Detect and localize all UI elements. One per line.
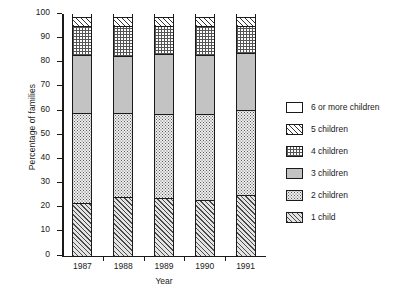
- bar-segment-1991-5-children[interactable]: [237, 18, 255, 28]
- y-tick-mark: [57, 13, 62, 14]
- legend-label: 2 children: [311, 190, 348, 200]
- y-tick-mark: [57, 37, 62, 38]
- y-tick: 100: [57, 13, 62, 14]
- bar-segment-1988-3-children[interactable]: [114, 57, 132, 114]
- y-tick-mark: [57, 206, 62, 207]
- bar-segment-1990-4-children[interactable]: [196, 27, 214, 56]
- legend-item[interactable]: 2 children: [286, 184, 398, 206]
- bar-segment-1988-1-child[interactable]: [114, 198, 132, 256]
- y-tick-label: 50: [24, 128, 50, 138]
- stacked-bar-chart: Percentage of families 01020304050607080…: [0, 0, 399, 301]
- bar-segment-1989-2-children[interactable]: [155, 115, 173, 198]
- bar-segment-1988-6-or-more-children[interactable]: [114, 14, 132, 18]
- y-tick: 60: [57, 110, 62, 111]
- x-axis-line: [62, 256, 266, 258]
- bar-segment-1987-4-children[interactable]: [73, 27, 91, 56]
- y-tick: 90: [57, 37, 62, 38]
- legend-item[interactable]: 1 child: [286, 206, 398, 228]
- y-tick: 50: [57, 134, 62, 135]
- bar-segment-1988-5-children[interactable]: [114, 18, 132, 28]
- y-tick-label: 70: [24, 79, 50, 89]
- legend-label: 1 child: [311, 212, 336, 222]
- y-tick-mark: [57, 182, 62, 183]
- legend-swatch-cross-hatch-grid: [286, 146, 303, 157]
- legend-item[interactable]: 4 children: [286, 140, 398, 162]
- y-tick-mark: [57, 230, 62, 231]
- chart-legend: 6 or more children5 children4 children3 …: [286, 96, 398, 228]
- bar-segment-1987-6-or-more-children[interactable]: [73, 14, 91, 18]
- legend-swatch-diagonal-hatch: [286, 212, 303, 223]
- legend-label: 4 children: [311, 146, 348, 156]
- legend-item[interactable]: 6 or more children: [286, 96, 398, 118]
- y-tick: 30: [57, 182, 62, 183]
- bar-segment-1991-3-children[interactable]: [237, 54, 255, 111]
- x-tick-label-1988: 1988: [103, 261, 143, 271]
- legend-swatch-fine-stipple: [286, 190, 303, 201]
- y-tick-mark: [57, 61, 62, 62]
- x-tick-label-1987: 1987: [62, 261, 102, 271]
- y-tick-label: 90: [24, 31, 50, 41]
- bar-segment-1990-2-children[interactable]: [196, 115, 214, 201]
- legend-swatch-solid-grey: [286, 168, 303, 179]
- legend-swatch-empty-white: [286, 102, 303, 113]
- y-tick-mark: [57, 134, 62, 135]
- bar-segment-1991-6-or-more-children[interactable]: [237, 14, 255, 18]
- bar-segment-1991-1-child[interactable]: [237, 196, 255, 255]
- bar-segment-1987-2-children[interactable]: [73, 114, 91, 203]
- y-tick-label: 100: [24, 7, 50, 17]
- bar-1987[interactable]: [72, 14, 92, 256]
- y-tick-mark: [57, 158, 62, 159]
- bar-segment-1989-3-children[interactable]: [155, 55, 173, 115]
- y-tick-label: 20: [24, 200, 50, 210]
- y-tick: 10: [57, 230, 62, 231]
- y-tick: 40: [57, 158, 62, 159]
- bar-segment-1987-5-children[interactable]: [73, 18, 91, 28]
- bar-segment-1989-4-children[interactable]: [155, 27, 173, 55]
- bar-1989[interactable]: [154, 14, 174, 256]
- bar-segment-1991-4-children[interactable]: [237, 27, 255, 54]
- legend-item[interactable]: 3 children: [286, 162, 398, 184]
- bar-1991[interactable]: [236, 14, 256, 256]
- x-tick-label-1989: 1989: [144, 261, 184, 271]
- y-tick: 20: [57, 206, 62, 207]
- y-tick-label: 30: [24, 176, 50, 186]
- y-axis-line: [62, 14, 64, 257]
- y-tick: 0: [57, 255, 62, 256]
- bar-segment-1988-4-children[interactable]: [114, 27, 132, 57]
- bar-1988[interactable]: [113, 14, 133, 256]
- legend-swatch-wide-hatch: [286, 124, 303, 135]
- bar-segment-1990-6-or-more-children[interactable]: [196, 14, 214, 18]
- y-tick-label: 0: [24, 249, 50, 259]
- y-tick-mark: [57, 85, 62, 86]
- bar-segment-1990-5-children[interactable]: [196, 18, 214, 28]
- y-tick-mark: [57, 110, 62, 111]
- y-tick-label: 10: [24, 224, 50, 234]
- x-tick-label-1991: 1991: [226, 261, 266, 271]
- bar-segment-1989-5-children[interactable]: [155, 18, 173, 28]
- bar-segment-1990-1-child[interactable]: [196, 201, 214, 255]
- bar-segment-1987-1-child[interactable]: [73, 204, 91, 256]
- y-tick-label: 40: [24, 152, 50, 162]
- x-tick-label-1990: 1990: [185, 261, 225, 271]
- x-axis-title: Year: [62, 276, 266, 286]
- y-tick-label: 80: [24, 55, 50, 65]
- bar-segment-1987-3-children[interactable]: [73, 56, 91, 114]
- bar-segment-1991-2-children[interactable]: [237, 111, 255, 197]
- bar-segment-1989-1-child[interactable]: [155, 199, 173, 256]
- plot-area: 0102030405060708090100 19871988198919901…: [62, 14, 266, 257]
- legend-label: 6 or more children: [311, 102, 380, 112]
- y-tick-mark: [57, 255, 62, 256]
- bar-segment-1989-6-or-more-children[interactable]: [155, 14, 173, 18]
- bar-1990[interactable]: [195, 14, 215, 256]
- legend-item[interactable]: 5 children: [286, 118, 398, 140]
- y-tick: 80: [57, 61, 62, 62]
- bar-segment-1990-3-children[interactable]: [196, 56, 214, 115]
- y-tick-label: 60: [24, 104, 50, 114]
- legend-label: 5 children: [311, 124, 348, 134]
- bar-segment-1988-2-children[interactable]: [114, 114, 132, 197]
- legend-label: 3 children: [311, 168, 348, 178]
- y-tick: 70: [57, 85, 62, 86]
